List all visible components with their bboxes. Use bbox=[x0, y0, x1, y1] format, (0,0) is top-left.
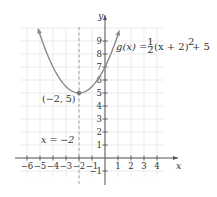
x-tick-label: 1 bbox=[115, 161, 120, 171]
y-tick-label: 7 bbox=[97, 62, 102, 72]
x-axis-label: x bbox=[176, 160, 182, 171]
y-tick-label: 5 bbox=[97, 88, 102, 98]
x-tick-label: 3 bbox=[141, 161, 146, 171]
vertex-label: (−2, 5) bbox=[42, 93, 76, 104]
x-tick-label: 2 bbox=[128, 161, 133, 171]
y-axis-label: y bbox=[97, 10, 104, 21]
x-tick-label: −4 bbox=[47, 161, 60, 171]
x-tick-label: −3 bbox=[60, 161, 73, 171]
x-tick-label: −6 bbox=[21, 161, 34, 171]
y-tick-label: 9 bbox=[97, 36, 102, 46]
vertex-point bbox=[77, 91, 81, 95]
svg-text:+ 5: + 5 bbox=[192, 41, 210, 52]
y-tick-label: −1 bbox=[89, 166, 102, 176]
y-tick-label: 1 bbox=[97, 140, 102, 150]
svg-text:g(x) =: g(x) = bbox=[116, 41, 147, 52]
y-tick-label: 4 bbox=[97, 101, 102, 111]
svg-text:2: 2 bbox=[147, 44, 153, 55]
axis-of-symmetry-label: x = −2 bbox=[41, 134, 74, 145]
function-label: g(x) = 12(x + 2)2 + 5 bbox=[116, 36, 210, 55]
y-tick-label: 3 bbox=[97, 114, 102, 124]
y-tick-label: 2 bbox=[97, 127, 102, 137]
x-tick-label: −5 bbox=[34, 161, 47, 171]
y-tick-label: 8 bbox=[97, 49, 102, 59]
svg-text:(x + 2): (x + 2) bbox=[154, 41, 189, 52]
x-tick-label: 4 bbox=[154, 161, 159, 171]
parabola-chart: −6−5−4−3−2−11234123456789−1 (−2, 5) x = … bbox=[0, 0, 217, 197]
